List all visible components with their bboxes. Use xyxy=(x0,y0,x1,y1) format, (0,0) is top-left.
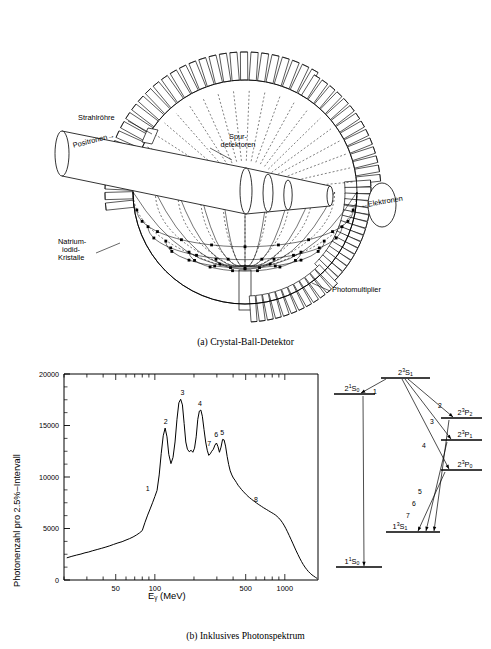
level-bars xyxy=(334,378,482,567)
svg-text:6: 6 xyxy=(412,500,416,507)
label-natriumiodid-line3: Kristalle xyxy=(58,254,84,263)
charmonium-level-diagram: 23S121S023P223P123P013S111S0 1234567 xyxy=(0,352,491,612)
caption-panel-b: (b) Inklusives Photonspektrum xyxy=(0,630,491,641)
svg-text:1: 1 xyxy=(373,388,377,395)
detector-diagram-panel: Strahlröhre Positronen→ Spur- detektoren… xyxy=(0,0,491,330)
crystal-ball-detector-drawing xyxy=(0,0,491,330)
svg-text:3: 3 xyxy=(430,418,434,425)
label-strahlrohre: Strahlröhre xyxy=(78,114,115,123)
svg-text:2: 2 xyxy=(438,402,442,409)
label-photomultiplier: Photomultiplier xyxy=(332,286,381,295)
svg-text:23S1: 23S1 xyxy=(398,367,413,377)
spectrum-and-levels-panel: 501005001000 05000100001500020000 123456… xyxy=(0,352,491,649)
svg-text:4: 4 xyxy=(422,442,426,449)
svg-text:23P0: 23P0 xyxy=(458,459,473,469)
svg-text:7: 7 xyxy=(406,512,410,519)
svg-text:13S1: 13S1 xyxy=(393,521,408,531)
svg-text:23P2: 23P2 xyxy=(458,407,473,417)
label-spurdetektoren-line2: detektoren xyxy=(203,141,273,150)
transition-labels: 1234567 xyxy=(373,388,442,519)
svg-text:5: 5 xyxy=(418,488,422,495)
svg-text:21S0: 21S0 xyxy=(345,383,360,393)
caption-panel-a: (a) Crystal-Ball-Detektor xyxy=(0,336,491,347)
svg-text:11S0: 11S0 xyxy=(345,556,360,566)
svg-text:23P1: 23P1 xyxy=(458,429,473,439)
